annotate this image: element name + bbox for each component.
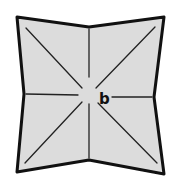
folded-square-diagram: b (0, 0, 170, 191)
label-b: b (99, 90, 110, 108)
